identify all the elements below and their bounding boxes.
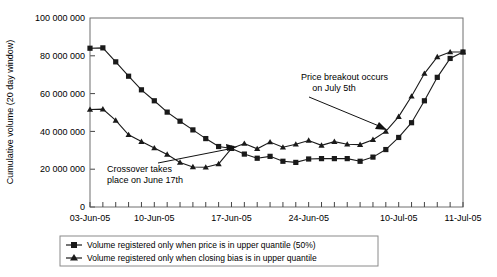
series-line xyxy=(90,52,463,167)
square-marker-icon xyxy=(203,136,208,141)
annotation-breakout: Price breakout occurs on July 5th xyxy=(301,72,389,130)
y-axis-tick-marks xyxy=(90,56,95,207)
square-marker-icon xyxy=(100,45,105,50)
triangle-marker-icon xyxy=(138,139,144,144)
annotation-crossover-line2: place on June 17th xyxy=(107,175,183,185)
square-marker-icon xyxy=(280,159,285,164)
triangle-marker-icon xyxy=(177,159,183,164)
square-marker-icon xyxy=(216,144,221,149)
annotation-breakout-arrow-line xyxy=(309,97,379,126)
triangle-marker-icon xyxy=(331,139,337,144)
square-marker-icon xyxy=(345,156,350,161)
square-marker-icon xyxy=(242,151,247,156)
square-marker-icon xyxy=(267,154,272,159)
square-marker-icon xyxy=(113,59,118,64)
x-axis-tick-label: 10-Jul-05 xyxy=(380,213,418,223)
annotation-breakout-line1: Price breakout occurs xyxy=(301,72,389,82)
square-marker-icon xyxy=(306,156,311,161)
triangle-marker-icon xyxy=(370,137,376,142)
annotation-breakout-line2: on July 5th xyxy=(312,83,356,93)
chart-figure: Cumulative volume (20 day window) 020 00… xyxy=(0,0,497,277)
triangle-marker-icon xyxy=(241,140,247,145)
y-axis-tick-labels: 020 000 00040 000 00060 000 00080 000 00… xyxy=(35,13,85,212)
chart-legend: Volume registered only when price is in … xyxy=(60,236,378,266)
legend-label-2: Volume registered only when closing bias… xyxy=(87,253,317,263)
line-chart-canvas: Cumulative volume (20 day window) 020 00… xyxy=(0,0,497,277)
triangle-marker-icon xyxy=(164,151,170,156)
y-axis-tick-label: 80 000 000 xyxy=(40,51,85,61)
square-marker-icon xyxy=(409,120,414,125)
triangle-marker-icon xyxy=(408,93,414,98)
square-marker-icon xyxy=(422,98,427,103)
annotation-crossover-line1: Crossover takes xyxy=(107,164,173,174)
square-marker-icon xyxy=(332,156,337,161)
square-marker-icon xyxy=(358,159,363,164)
y-axis-tick-label: 20 000 000 xyxy=(40,164,85,174)
legend-label-1: Volume registered only when price is in … xyxy=(87,240,316,250)
triangle-marker-icon xyxy=(151,145,157,150)
square-marker-icon xyxy=(139,87,144,92)
square-marker-icon xyxy=(165,110,170,115)
square-marker-icon xyxy=(87,46,92,51)
series-closing-bias-upper-quantile xyxy=(87,49,466,170)
y-axis-tick-label: 40 000 000 xyxy=(40,127,85,137)
square-marker-icon xyxy=(293,160,298,165)
square-marker-icon xyxy=(71,242,77,248)
square-marker-icon xyxy=(396,135,401,140)
square-marker-icon xyxy=(319,156,324,161)
x-axis-tick-label: 10-Jun-05 xyxy=(134,213,175,223)
annotation-breakout-arrowhead xyxy=(375,122,387,130)
legend-item-closing-bias-upper-quantile[interactable]: Volume registered only when closing bias… xyxy=(66,253,317,263)
triangle-marker-icon xyxy=(267,139,273,144)
triangle-marker-icon xyxy=(306,137,312,142)
x-axis-tick-label: 11-Jul-05 xyxy=(445,213,482,223)
y-axis-tick-label: 60 000 000 xyxy=(40,89,85,99)
y-axis-title: Cumulative volume (20 day window) xyxy=(5,40,15,185)
y-axis-tick-label: 0 xyxy=(80,202,85,212)
square-marker-icon xyxy=(126,74,131,79)
square-marker-icon xyxy=(435,75,440,80)
x-axis-tick-marks xyxy=(90,202,463,207)
square-marker-icon xyxy=(190,127,195,132)
x-axis-tick-label: 24-Jun-05 xyxy=(288,213,329,223)
square-marker-icon xyxy=(370,155,375,160)
square-marker-icon xyxy=(383,147,388,152)
legend-item-price-upper-quantile[interactable]: Volume registered only when price is in … xyxy=(66,240,316,250)
square-marker-icon xyxy=(152,98,157,103)
triangle-marker-icon xyxy=(396,114,402,119)
square-marker-icon xyxy=(448,56,453,61)
y-axis-tick-label: 100 000 000 xyxy=(35,13,85,23)
x-axis-tick-label: 03-Jun-05 xyxy=(70,213,111,223)
square-marker-icon xyxy=(255,156,260,161)
square-marker-icon xyxy=(177,119,182,124)
series-price-upper-quantile xyxy=(87,45,465,165)
x-axis-tick-label: 17-Jun-05 xyxy=(211,213,252,223)
x-axis-tick-labels: 03-Jun-0510-Jun-0517-Jun-0524-Jun-0510-J… xyxy=(70,213,482,223)
